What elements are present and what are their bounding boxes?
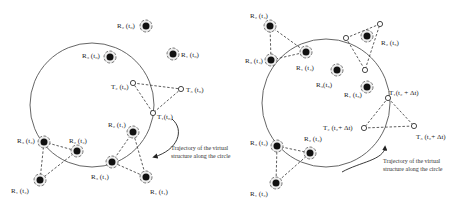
node-label: R₁ (t₁) [150, 189, 168, 196]
node-label: R₃ (t₂) [250, 140, 268, 147]
node-label: R₁ (t₂) [11, 188, 29, 195]
robot-marker [106, 156, 118, 168]
node-label: R₂ (t₂) [69, 138, 87, 145]
robot-marker [300, 46, 312, 58]
target-marker [361, 125, 366, 130]
robot-marker [361, 81, 373, 93]
node-label: R₁ (t₅) [344, 92, 362, 99]
robot-marker [304, 147, 316, 159]
node-label: R₃ (t₁) [91, 174, 109, 181]
node-label: R₂ (t₅) [381, 40, 399, 47]
trajectory-circle-left [30, 43, 154, 167]
robot-marker [140, 20, 152, 32]
robot-marker [167, 48, 179, 60]
robot-marker [140, 171, 152, 183]
node-label: R₃ (t₄) [245, 58, 263, 65]
trajectory-note: Trajectory of the virtual structure alon… [171, 145, 241, 160]
node-label: R₁ (t₄) [296, 65, 314, 72]
robot-marker [270, 177, 282, 189]
robot-marker [265, 54, 277, 66]
node-label: R₃(t₅) [316, 82, 332, 89]
trajectory-note: Trajectory of the virtual structure alon… [383, 158, 453, 173]
robot-marker [127, 126, 139, 138]
formation-point-marker [343, 35, 348, 40]
node-label: R₁ (t₀) [181, 52, 199, 59]
node-label: T₃ (t₂+ Δt) [416, 134, 446, 141]
node-label: T₁(t₀) [157, 114, 173, 121]
node-label: T₁(t₂ + Δt) [389, 90, 419, 97]
target-marker [411, 123, 416, 128]
node-label: T₂ (t₂+ Δt) [323, 125, 353, 132]
robot-marker [271, 140, 283, 152]
robot-marker [104, 51, 116, 63]
formation-point-marker [377, 21, 382, 26]
node-label: R₃ (t₀) [82, 53, 100, 60]
node-label: R₂ (t₄) [250, 13, 268, 20]
robot-marker [331, 64, 343, 76]
target-marker [150, 110, 155, 115]
node-label: R₂ (t₀) [117, 23, 135, 30]
robot-marker [34, 174, 46, 186]
robot-marker [264, 20, 276, 32]
target-marker [178, 86, 183, 91]
target-marker [130, 80, 135, 85]
robot-marker [71, 145, 83, 157]
formation-point-marker [362, 67, 367, 72]
robot-marker [38, 136, 50, 148]
node-label: T₂ (t₀) [111, 84, 129, 91]
formation-diagram [0, 0, 460, 205]
node-label: R₂ (t₂) [304, 136, 322, 143]
robot-marker [361, 30, 373, 42]
node-label: R₁ (t₂) [250, 191, 268, 198]
node-label: R₂ (t₁) [108, 122, 126, 129]
node-label: R₃ (t₂) [17, 138, 35, 145]
node-label: T₃ (t₀) [186, 87, 204, 94]
trajectory-arrow-right [342, 147, 385, 172]
